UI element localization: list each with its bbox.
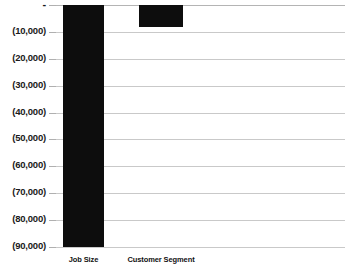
x-axis-category-label: Customer Segment (121, 255, 201, 264)
x-axis-category-label: Job Size (44, 255, 124, 264)
